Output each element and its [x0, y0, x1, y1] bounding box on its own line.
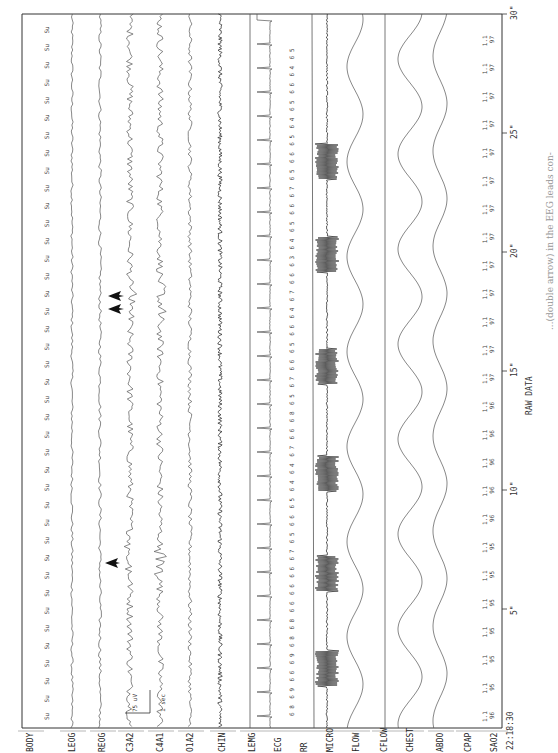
rr-value: 6 6 — [288, 359, 295, 370]
rr-value: 6 5 — [288, 394, 295, 405]
body-position-label: Su — [43, 536, 50, 544]
channel-label-body: BODY — [26, 733, 35, 752]
channel-label-ecg: ECG — [274, 737, 283, 752]
body-position-label: Su — [43, 572, 50, 580]
body-position-label: Su — [43, 642, 50, 650]
trace-abdo — [433, 14, 447, 728]
rr-value: 6 5 — [288, 169, 295, 180]
body-position-label: Su — [43, 255, 50, 263]
cpap-value: 1.1 — [481, 485, 488, 496]
caption-fragment: ...(double arrow) in the EEG leads con- — [545, 152, 555, 330]
body-position-label: Su — [43, 448, 50, 456]
body-position-label: Su — [43, 132, 50, 140]
sao2-value: 97 — [488, 204, 495, 212]
rr-value: 6 6 — [288, 152, 295, 163]
rr-value: 6 4 — [288, 238, 295, 249]
body-position-label: Su — [43, 484, 50, 492]
rr-value: 6 6 — [288, 273, 295, 284]
rr-value: 6 5 — [288, 497, 295, 508]
rr-value: 6 5 — [288, 134, 295, 145]
channel-label-micro: MICRO — [326, 728, 335, 752]
sao2-value: 97 — [488, 261, 495, 269]
body-position-label: Su — [43, 202, 50, 210]
sao2-value: 95 — [488, 542, 495, 550]
body-position-label: Su — [43, 96, 50, 104]
cpap-value: 1.1 — [481, 514, 488, 525]
channel-label-lemg: LEMG — [248, 733, 257, 752]
body-position-label: Su — [43, 396, 50, 404]
channel-label-cpap: CPAP — [464, 733, 473, 752]
channel-label-cflow: CFLOW — [380, 728, 389, 752]
channel-label-sao2: SAO2 — [490, 733, 499, 752]
cpap-value: 1.1 — [481, 711, 488, 722]
rr-value: 6 5 — [288, 532, 295, 543]
rr-value: 6 6 — [288, 566, 295, 577]
rr-value: 6 5 — [288, 100, 295, 111]
body-position-label: Su — [43, 114, 50, 122]
rr-value: 6 6 — [288, 204, 295, 215]
axis-title: RAW DATA — [525, 376, 534, 415]
channel-label-c3a2: C3A2 — [126, 733, 135, 752]
plot-frame — [22, 14, 502, 728]
arousal-arrow-icon — [105, 558, 120, 568]
time-tick-label: 25" — [510, 125, 519, 139]
rr-value: 6 6 — [288, 428, 295, 439]
rr-value: 6 5 — [288, 48, 295, 59]
body-position-label: Su — [43, 589, 50, 597]
sao2-value: 96 — [488, 458, 495, 466]
rr-value: 6 4 — [288, 117, 295, 128]
rr-value: 6 7 — [288, 376, 295, 387]
trace-c4a1 — [154, 14, 166, 727]
sao2-value: 97 — [488, 36, 495, 44]
body-position-label: Su — [43, 607, 50, 615]
rr-value: 6 7 — [288, 446, 295, 457]
cpap-value: 1.1 — [481, 570, 488, 581]
channel-label-flow: FLOW — [352, 733, 361, 752]
sao2-value: 95 — [488, 683, 495, 691]
time-tick-label: 30" — [510, 6, 519, 20]
time-tick-label: 15" — [510, 363, 519, 377]
channel-label-leog: LEOG — [68, 733, 77, 752]
body-position-label: Su — [43, 360, 50, 368]
scale-marker: 75 uV 1 sec — [125, 690, 166, 713]
rr-value: 6 8 — [288, 636, 295, 647]
cpap-value: 1.1 — [481, 204, 488, 215]
body-position-labels: SuSuSuSuSuSuSuSuSuSuSuSuSuSuSuSuSuSuSuSu… — [43, 26, 50, 720]
trace-flow — [347, 14, 363, 728]
body-position-label: Su — [43, 325, 50, 333]
start-time: 22:18:30 — [506, 711, 515, 750]
body-position-label: Su — [43, 378, 50, 386]
channel-label-o1a2: O1A2 — [186, 733, 195, 752]
sao2-value: 96 — [488, 430, 495, 438]
polysomnogram-sheet: SuSuSuSuSuSuSuSuSuSuSuSuSuSuSuSuSuSuSuSu… — [0, 0, 558, 753]
cpap-value: 1.1 — [481, 598, 488, 609]
cpap-value: 1.1 — [481, 119, 488, 130]
sao2-value: 95 — [488, 571, 495, 579]
rr-value: 6 7 — [288, 549, 295, 560]
cpap-value: 1.1 — [481, 317, 488, 328]
cpap-value: 1.1 — [481, 148, 488, 159]
rr-value: 6 7 — [288, 186, 295, 197]
body-position-label: Su — [43, 554, 50, 562]
sao2-value: 96 — [488, 486, 495, 494]
channel-label-chin: CHIN — [218, 733, 227, 752]
channel-label-reog: REOG — [98, 733, 107, 752]
rr-value: 6 4 — [288, 307, 295, 318]
sao2-value: 97 — [488, 373, 495, 381]
channel-label-abdo: ABDO — [436, 733, 445, 752]
time-tick-label: 20" — [510, 244, 519, 258]
body-position-label: Su — [43, 220, 50, 228]
rr-values: 6 86 96 66 96 86 86 66 66 66 76 56 66 56… — [288, 48, 295, 716]
rr-value: 6 4 — [288, 463, 295, 474]
channel-labels: BODYLEOGREOGC3A2C4A1O1A2CHINLEMGECGRRMIC… — [18, 728, 508, 752]
trace-o1a2 — [188, 14, 192, 727]
body-position-label: Su — [43, 695, 50, 703]
body-position-label: Su — [43, 413, 50, 421]
cpap-value: 1.1 — [481, 626, 488, 637]
rr-value: 6 6 — [288, 670, 295, 681]
rr-value: 6 8 — [288, 411, 295, 422]
body-position-label: Su — [43, 712, 50, 720]
rr-value: 6 6 — [288, 584, 295, 595]
trace-reog — [99, 14, 102, 728]
rr-value: 6 9 — [288, 653, 295, 664]
